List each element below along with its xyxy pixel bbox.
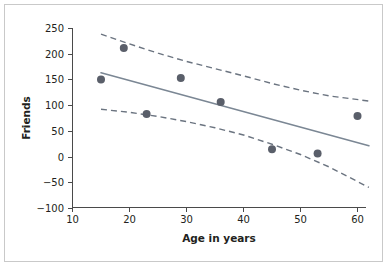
x-axis-ticks (73, 208, 358, 212)
y-tick-label-minus50: −50 (43, 177, 64, 188)
data-point (97, 75, 105, 83)
data-point (268, 145, 276, 153)
chart-figure: 250 200 150 100 50 0 −50 −100 10 20 30 4… (0, 0, 388, 267)
x-tick-label-60: 60 (351, 214, 364, 225)
x-axis-tick-labels: 10 20 30 40 50 60 (66, 214, 364, 225)
x-tick-label-20: 20 (123, 214, 136, 225)
y-tick-label-minus100: −100 (37, 203, 64, 214)
y-tick-label-50: 50 (51, 126, 64, 137)
data-point (217, 98, 225, 106)
data-point (177, 74, 185, 82)
lower-confidence-band (101, 109, 369, 187)
data-point (314, 149, 322, 157)
y-axis-title: Friends (20, 96, 32, 140)
x-tick-label-10: 10 (66, 214, 79, 225)
data-point (354, 112, 362, 120)
data-points-group (97, 44, 362, 157)
y-axis-tick-labels: 250 200 150 100 50 0 −50 −100 (37, 23, 64, 214)
y-tick-label-100: 100 (45, 100, 64, 111)
upper-confidence-band (101, 34, 369, 101)
regression-fit-line (101, 73, 369, 146)
x-tick-label-50: 50 (294, 214, 307, 225)
y-tick-label-0: 0 (58, 152, 64, 163)
y-tick-label-200: 200 (45, 49, 64, 60)
y-tick-label-250: 250 (45, 23, 64, 34)
x-axis-title: Age in years (182, 232, 256, 244)
x-tick-label-30: 30 (180, 214, 193, 225)
data-point (143, 110, 151, 118)
data-point (120, 44, 128, 52)
x-tick-label-40: 40 (237, 214, 250, 225)
y-tick-label-150: 150 (45, 74, 64, 85)
scatter-plot-canvas: 250 200 150 100 50 0 −50 −100 10 20 30 4… (0, 0, 388, 267)
y-axis-ticks (68, 29, 72, 209)
